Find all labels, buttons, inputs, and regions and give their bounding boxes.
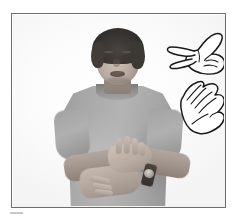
signer-hair-right-side <box>131 41 145 69</box>
signer-left-eyebrow <box>104 51 113 53</box>
signer-upper-hand-finger <box>115 138 122 154</box>
handshape-b-icon: B handshape <box>170 80 226 136</box>
signer-upper-hand-finger <box>124 136 131 154</box>
signer-nose <box>113 59 120 67</box>
signer-chin-shadow <box>106 77 130 85</box>
signer-right-eyebrow <box>122 51 131 53</box>
signer-right-eye <box>123 55 130 58</box>
below-frame-mark <box>10 212 23 214</box>
signer-description: Woman with short dark hair wearing a gra… <box>12 14 13 15</box>
signer-hair-left-side <box>91 42 104 68</box>
handshape-v-icon: V handshape <box>165 30 226 78</box>
signer-upper-hand-finger <box>132 138 139 155</box>
photo-frame: Woman with short dark hair wearing a gra… <box>11 13 226 208</box>
page-root: Woman with short dark hair wearing a gra… <box>0 0 236 222</box>
signer-left-eye <box>105 55 112 58</box>
